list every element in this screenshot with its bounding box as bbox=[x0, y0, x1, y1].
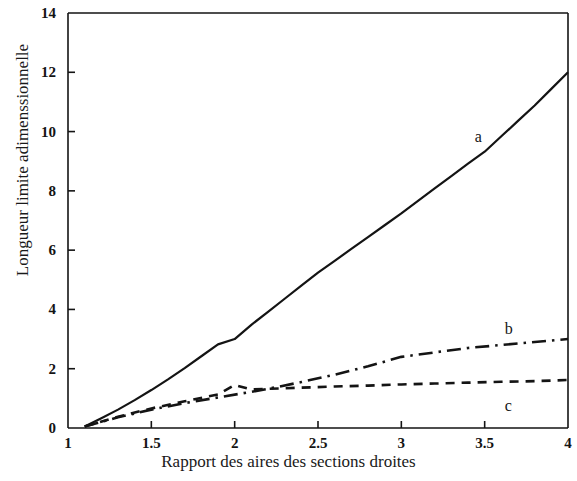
y-axis-title: Longueur limite adimenssionnelle bbox=[13, 0, 33, 320]
x-tick-label: 1.5 bbox=[142, 436, 161, 451]
x-tick-label: 2 bbox=[231, 436, 239, 451]
chart-figure: 02468101214 11.522.533.54 abc Rapport de… bbox=[0, 0, 577, 481]
x-tick-label: 1 bbox=[64, 436, 72, 451]
curve-label-c: c bbox=[505, 398, 512, 414]
chart-background bbox=[0, 0, 577, 481]
x-tick-label: 3 bbox=[398, 436, 406, 451]
x-tick-label: 3.5 bbox=[475, 436, 494, 451]
x-axis-title: Rapport des aires des sections droites bbox=[0, 452, 577, 472]
y-tick-label: 2 bbox=[0, 361, 56, 376]
y-tick-label: 0 bbox=[0, 421, 56, 436]
x-tick-label: 2.5 bbox=[309, 436, 328, 451]
x-tick-label: 4 bbox=[564, 436, 572, 451]
plot-area bbox=[0, 0, 577, 481]
curve-label-a: a bbox=[475, 129, 482, 145]
curve-label-b: b bbox=[505, 321, 513, 337]
